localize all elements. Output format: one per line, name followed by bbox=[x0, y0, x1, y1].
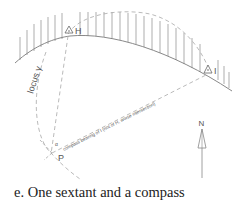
label-h: H bbox=[75, 26, 82, 36]
figure-caption: e. One sextant and a compass bbox=[14, 184, 185, 201]
label-angle: α bbox=[55, 141, 58, 147]
extension-lower-left bbox=[44, 153, 52, 160]
coastline-hatching bbox=[20, 12, 229, 88]
label-i: I bbox=[214, 66, 217, 76]
landmark-i-triangle-icon bbox=[204, 65, 212, 73]
line-h-to-p bbox=[51, 36, 68, 154]
coastline bbox=[15, 35, 232, 91]
navigation-diagram: H I P α locus γ compass bearing of I (no… bbox=[0, 0, 245, 201]
landmark-h-triangle-icon bbox=[65, 26, 73, 33]
landmark-h-dot bbox=[68, 30, 69, 31]
north-arrow-icon bbox=[198, 129, 206, 178]
label-locus-gamma: locus γ bbox=[25, 64, 43, 94]
landmark-i-dot bbox=[207, 69, 208, 70]
label-north: N bbox=[199, 119, 205, 128]
position-circle-arc bbox=[68, 12, 210, 72]
label-p: P bbox=[58, 153, 64, 163]
extension-upper-left bbox=[40, 140, 52, 153]
label-bearing: compass bearing of I (not of H, worse in… bbox=[62, 101, 156, 152]
